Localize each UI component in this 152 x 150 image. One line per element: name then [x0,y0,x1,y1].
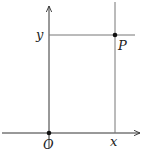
y-label: y [35,27,44,42]
coordinate-diagram: y P O x [0,0,152,150]
point-p-label: P [117,38,127,53]
origin-label: O [43,137,54,150]
point-p [113,33,118,38]
x-label: x [110,134,118,149]
origin-point [47,131,52,136]
